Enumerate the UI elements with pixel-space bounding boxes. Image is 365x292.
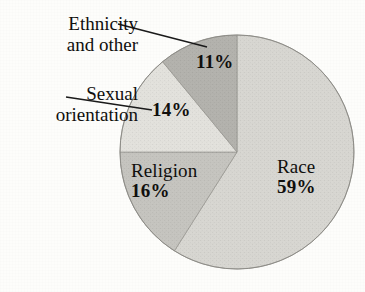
slice-label-sexual-orientation: Sexual orientation bbox=[0, 84, 138, 125]
pct-14-text: 14% bbox=[152, 100, 191, 120]
slice-label-ethnicity-and-other: Ethnicity and other bbox=[6, 14, 138, 55]
slice-value-sexual-orientation: 14% bbox=[152, 100, 191, 120]
sexual-label-line-2: orientation bbox=[0, 105, 138, 126]
slice-value-ethnicity-and-other: 11% bbox=[196, 52, 234, 72]
sexual-label-line-1: Sexual bbox=[0, 84, 138, 105]
pct-16-text: 16% bbox=[131, 181, 197, 201]
religion-name-text: Religion bbox=[131, 161, 197, 181]
slice-label-race: Race 59% bbox=[277, 157, 316, 197]
ethnicity-label-line-2: and other bbox=[6, 35, 138, 56]
pct-11-text: 11% bbox=[196, 52, 234, 72]
pie-texture-overlay bbox=[120, 35, 354, 269]
pie-chart-figure: Ethnicity and other Sexual orientation 1… bbox=[0, 0, 365, 292]
race-name-text: Race bbox=[277, 157, 316, 177]
ethnicity-label-line-1: Ethnicity bbox=[6, 14, 138, 35]
slice-label-religion: Religion 16% bbox=[131, 161, 197, 201]
pct-59-text: 59% bbox=[277, 177, 316, 197]
